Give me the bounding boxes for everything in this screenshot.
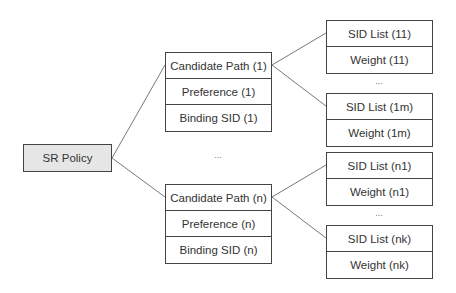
sr-policy-diagram: SR Policy Candidate Path (1) Preference …: [0, 0, 456, 293]
sid-list-label: SID List (1m): [327, 94, 432, 120]
sid-list-label: SID List (n1): [327, 153, 432, 179]
binding-sid-label: Binding SID (1): [166, 105, 271, 131]
binding-sid-label: Binding SID (n): [166, 237, 271, 263]
sid-list-11-box: SID List (11) Weight (11): [326, 20, 433, 74]
ellipsis-candidate-paths: ...: [214, 150, 222, 160]
sid-list-1m-box: SID List (1m) Weight (1m): [326, 93, 433, 147]
preference-label: Preference (n): [166, 211, 271, 237]
weight-label: Weight (nk): [327, 252, 432, 278]
candidate-path-label: Candidate Path (1): [166, 53, 271, 79]
ellipsis-sid-lists-1: ...: [375, 76, 383, 86]
sr-policy-label: SR Policy: [43, 152, 93, 164]
sr-policy-box: SR Policy: [23, 144, 112, 172]
weight-label: Weight (11): [327, 47, 432, 73]
candidate-path-1-box: Candidate Path (1) Preference (1) Bindin…: [165, 52, 272, 132]
weight-label: Weight (1m): [327, 120, 432, 146]
weight-label: Weight (n1): [327, 179, 432, 205]
preference-label: Preference (1): [166, 79, 271, 105]
sid-list-label: SID List (11): [327, 21, 432, 47]
sid-list-label: SID List (nk): [327, 226, 432, 252]
sid-list-nk-box: SID List (nk) Weight (nk): [326, 225, 433, 279]
candidate-path-label: Candidate Path (n): [166, 185, 271, 211]
candidate-path-n-box: Candidate Path (n) Preference (n) Bindin…: [165, 184, 272, 264]
sid-list-n1-box: SID List (n1) Weight (n1): [326, 152, 433, 206]
ellipsis-sid-lists-n: ...: [375, 208, 383, 218]
